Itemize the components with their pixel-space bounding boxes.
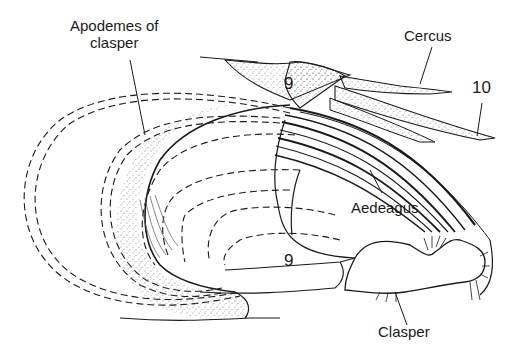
cercus-shape <box>340 76 452 94</box>
label-apodemes-line1: Apodemes of <box>70 17 158 34</box>
apodeme-sclerite <box>116 100 290 318</box>
diagram-drawing <box>0 0 505 351</box>
label-aedeagus: Aedeagus <box>351 199 419 216</box>
label-segment-10: 10 <box>472 79 491 96</box>
genitalia-diagram: Apodemes of clasper Cercus 10 9 Aedeagus… <box>0 0 505 351</box>
clasper-shape <box>345 240 485 294</box>
label-segment-9-ventral: 9 <box>284 252 293 269</box>
label-segment-9-dorsal: 9 <box>284 75 293 92</box>
label-apodemes-line2: clasper <box>70 34 158 51</box>
label-cercus: Cercus <box>404 27 452 44</box>
label-clasper: Clasper <box>378 323 430 340</box>
label-apodemes-of-clasper: Apodemes of clasper <box>70 17 158 51</box>
